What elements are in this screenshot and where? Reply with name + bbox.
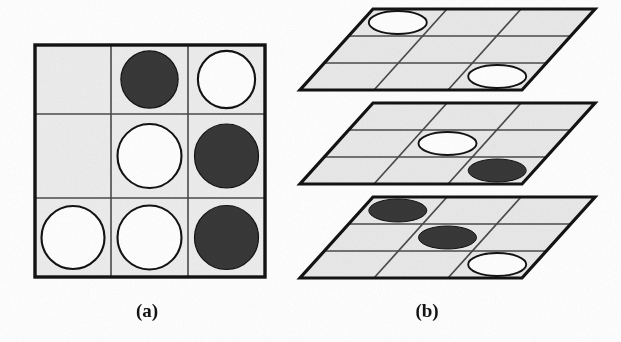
panel-a-label: (a) — [136, 300, 158, 322]
piece-white-ellipse[interactable] — [468, 65, 526, 88]
piece-white-ellipse[interactable] — [468, 253, 526, 276]
panel-b-label: (b) — [415, 300, 438, 322]
piece-dark-ellipse[interactable] — [468, 159, 526, 182]
piece-white-circle[interactable] — [42, 206, 105, 269]
piece-white-ellipse[interactable] — [419, 132, 477, 155]
panel-a — [35, 45, 265, 277]
panel-b — [300, 9, 595, 278]
piece-dark-circle[interactable] — [195, 206, 259, 270]
figure-root: (a) (b) — [0, 0, 621, 342]
piece-dark-ellipse[interactable] — [419, 226, 477, 249]
piece-white-ellipse[interactable] — [369, 11, 427, 34]
piece-dark-circle[interactable] — [121, 51, 178, 108]
piece-dark-circle[interactable] — [195, 124, 259, 188]
piece-white-circle[interactable] — [198, 51, 255, 108]
piece-dark-ellipse[interactable] — [369, 199, 427, 222]
figure-canvas: (a) (b) — [0, 0, 621, 342]
piece-white-circle[interactable] — [118, 124, 182, 188]
piece-white-circle[interactable] — [118, 206, 182, 270]
